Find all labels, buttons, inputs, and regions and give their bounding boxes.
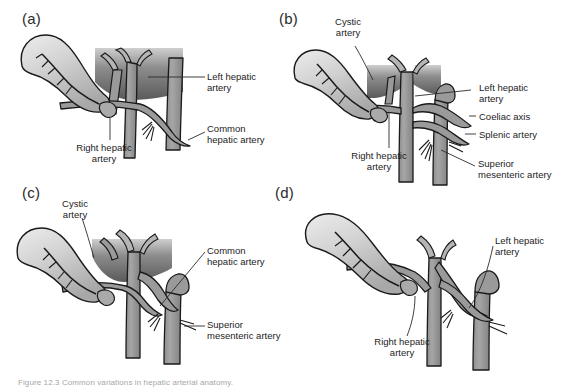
panel-a-label-right-hepatic-artery: Right hepatic artery — [54, 142, 154, 164]
gallbladder-shape — [294, 50, 378, 119]
panel-b-label-right-hepatic-artery: Right hepatic artery — [329, 150, 429, 172]
panel-a: (a) Left hepatic artery Common hepatic a… — [0, 0, 288, 190]
panel-d-letter: (d) — [275, 184, 294, 201]
hepatic-branch-vessels — [417, 236, 456, 260]
panel-b-label-left-hepatic-artery: Left hepatic artery — [479, 82, 528, 104]
panel-b-label-splenic-artery: Splenic artery — [479, 129, 537, 140]
panel-c-label-superior-mesenteric-artery: Superior mesenteric artery — [207, 319, 280, 341]
panel-d: (d) Left hepatic artery Right hepatic ar… — [289, 186, 577, 376]
aorta-vessel — [126, 252, 140, 358]
panel-c: (c) Cystic artery Common hepatic artery … — [0, 186, 288, 376]
panel-b-label-coeliac-axis: Coeliac axis — [479, 111, 530, 122]
panel-c-label-cystic-artery: Cystic artery — [40, 198, 110, 220]
panel-b-label-cystic-artery: Cystic artery — [313, 16, 383, 38]
superior-mesenteric-vessel — [164, 274, 189, 364]
figure-caption: Figure 12.3 Common variations in hepatic… — [18, 378, 233, 387]
panel-b-letter: (b) — [279, 10, 298, 27]
cystic-duct-bulge — [370, 108, 387, 123]
cystic-duct-bulge — [99, 102, 116, 118]
panel-c-letter: (c) — [22, 184, 40, 201]
panel-b-label-superior-mesenteric-artery: Superior mesenteric artery — [478, 158, 551, 180]
figure-hepatic-arterial-variations: (a) Left hepatic artery Common hepatic a… — [0, 0, 577, 392]
panel-d-label-left-hepatic-artery: Left hepatic artery — [495, 235, 544, 257]
panel-a-label-left-hepatic-artery: Left hepatic artery — [207, 71, 256, 93]
panel-b: (b) Cystic artery Left hepatic artery Co… — [289, 0, 577, 190]
panel-d-label-right-hepatic-artery: Right hepatic artery — [347, 336, 457, 358]
panel-a-label-common-hepatic-artery: Common hepatic artery — [207, 123, 265, 145]
panel-c-label-common-hepatic-artery: Common hepatic artery — [207, 245, 265, 267]
mesenteric-branches — [142, 122, 154, 141]
panel-a-letter: (a) — [22, 10, 41, 27]
gallbladder-shape — [306, 214, 409, 295]
cystic-duct-bulge — [97, 290, 114, 306]
